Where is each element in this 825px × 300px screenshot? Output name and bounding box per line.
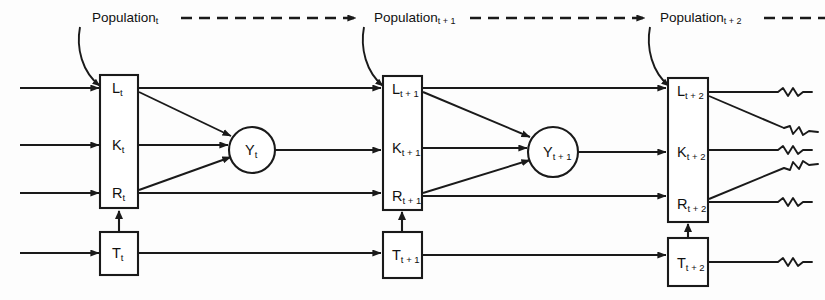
squiggle-break-labor-t2 [778,88,812,96]
population-pointer-t2 [649,27,669,86]
squiggle-break-resources-diag-t2 [784,161,818,170]
link-labor-to-output-t [139,92,231,136]
link-labor-to-output-t1 [423,92,530,137]
flow-diagram: Populationt Lt Kt Rt Tt Yt [0,0,825,300]
outline-labor-diag-t2 [709,96,784,128]
outline-resources-diag-t2 [709,168,784,199]
population-pointer-t [79,27,100,86]
link-resources-to-output-t1 [423,160,530,193]
link-resources-to-output-t [139,157,231,190]
population-label-t1: Populationt + 1 [374,10,456,27]
period-group-t2: Populationt + 2 Lt + 2 Kt + 2 Rt + 2 Tt … [649,10,825,286]
squiggle-break-capital-t2 [778,146,812,154]
squiggle-break-resources-t2 [778,198,812,206]
diagram-canvas: Populationt Lt Kt Rt Tt Yt [0,0,825,300]
population-label-t2: Populationt + 2 [660,10,742,27]
population-pointer-t1 [363,27,383,86]
period-group-t: Populationt Lt Kt Rt Tt Yt [20,10,381,275]
population-label-t: Populationt [92,10,159,27]
period-group-t1: Populationt + 1 Lt + 1 Kt + 1 Rt + 1 Tt … [363,10,666,278]
squiggle-break-technology-t2 [778,258,812,266]
squiggle-break-labor-diag-t2 [784,126,818,135]
input-arrows-t [20,88,99,253]
